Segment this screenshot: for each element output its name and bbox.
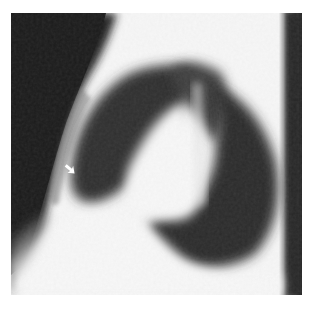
radiograph-image bbox=[11, 13, 302, 295]
radiograph-drawing bbox=[11, 13, 302, 295]
